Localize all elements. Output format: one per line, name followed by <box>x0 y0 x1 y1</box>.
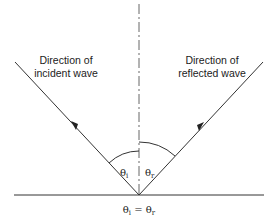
angle-arc-reflected <box>139 142 175 156</box>
equation-label: θi = θr <box>123 204 156 217</box>
reflected-label-line2: reflected wave <box>178 67 246 79</box>
angle-arc-incident <box>109 151 139 163</box>
theta-r-label: θr <box>145 167 155 180</box>
incident-label-line2: incident wave <box>34 67 98 79</box>
reflection-diagram: Direction of incident wave Direction of … <box>0 0 277 224</box>
incident-label-line1: Direction of <box>39 54 92 66</box>
reflected-label-line1: Direction of <box>185 54 238 66</box>
reflected-ray <box>139 62 263 195</box>
theta-i-label: θi <box>120 167 129 180</box>
